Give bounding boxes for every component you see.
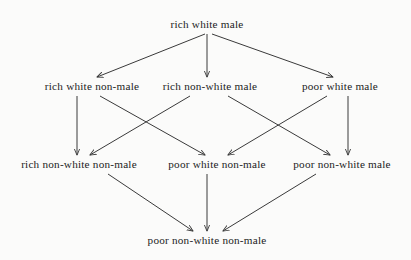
edge-rwm-to-rwn [97, 34, 205, 77]
edge-rwn-to-pwn [100, 96, 205, 155]
edge-rwm-to-pwm [212, 34, 333, 77]
edge-pnwm-to-pnwn [223, 174, 316, 231]
edge-rnwn-to-pnwn [108, 174, 193, 231]
node-pwn: poor white non-male [168, 159, 265, 170]
node-pwm: poor white male [302, 81, 378, 92]
node-rwn: rich white non-male [45, 81, 139, 92]
node-rwm: rich white male [171, 19, 244, 30]
node-rnwm: rich non-white male [163, 81, 257, 92]
edge-group [77, 34, 348, 231]
node-pnwn: poor non-white non-male [148, 235, 267, 246]
node-rnwn: rich non-white non-male [21, 159, 137, 170]
edge-layer [0, 0, 411, 260]
node-pnwm: poor non-white male [293, 159, 390, 170]
edge-rnwm-to-rnwn [90, 96, 190, 155]
hasse-diagram: rich white malerich white non-malerich n… [0, 0, 411, 260]
